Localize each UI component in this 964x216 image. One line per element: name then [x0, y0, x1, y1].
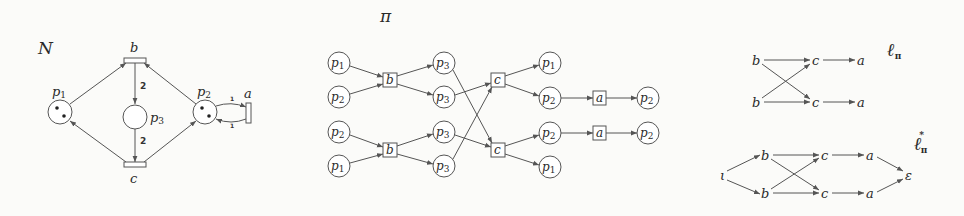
arc-c-p2 [144, 121, 196, 162]
weight-b-p3: 2 [140, 81, 146, 91]
weight-a-p2: 1 [230, 122, 234, 129]
col2-places: p3 p3 p3 p3 [433, 52, 455, 177]
node-a: a [857, 53, 865, 68]
node-b: b [752, 53, 760, 68]
token [207, 114, 211, 118]
node-iota: ι [720, 168, 725, 183]
arc-p2-a [216, 104, 246, 107]
arc-p1-b [70, 63, 126, 104]
transition-c [124, 162, 146, 167]
node-epsilon: ε [905, 168, 912, 183]
node-a: a [866, 148, 874, 163]
event-b-label: b [386, 143, 394, 157]
col1-places: p1 p2 p2 p1 [328, 52, 350, 177]
place-p1 [48, 100, 72, 124]
petri-net-N: N b c a p1 p3 p2 2 2 1 1 [37, 38, 252, 186]
node-b: b [761, 148, 769, 163]
transition-a-label: a [244, 86, 252, 101]
lpo-star-title: ℓπ* [914, 130, 928, 155]
arc-p2-b [144, 63, 196, 104]
arc-c-p1 [70, 121, 126, 162]
place-p3-label: p3 [150, 110, 164, 126]
transition-b [124, 58, 146, 63]
lpo-star-arcs [727, 155, 903, 194]
token [62, 114, 66, 118]
lpo-title: ℓπ [887, 39, 902, 61]
node-c: c [821, 186, 829, 201]
figure-canvas: N b c a p1 p3 p2 2 2 1 1 [0, 0, 964, 216]
lpo-l-pi: ℓπ b b c c a a [752, 39, 902, 110]
process-title: π [379, 6, 392, 26]
process-pi: π p1 p2 p2 p1 b b p3 p3 p3 p3 [328, 6, 659, 178]
transition-a [246, 103, 251, 123]
node-c: c [821, 148, 829, 163]
event-c-label: c [494, 73, 501, 87]
transition-c-label: c [130, 171, 138, 186]
place-p1-label: p1 [52, 84, 66, 100]
node-c: c [812, 95, 820, 110]
weight-p2-a: 1 [230, 95, 234, 102]
place-p2 [193, 100, 217, 124]
node-a: a [857, 95, 865, 110]
place-p3 [123, 105, 147, 129]
col3-places: p1 p2 p2 p1 [539, 52, 561, 178]
weight-p3-c: 2 [140, 136, 146, 146]
node-b: b [761, 186, 769, 201]
node-a: a [866, 186, 874, 201]
event-b-label: b [386, 73, 394, 87]
event-c-label: c [494, 143, 501, 157]
token [200, 106, 204, 110]
net-title: N [37, 38, 54, 58]
transition-b-label: b [130, 40, 138, 55]
token [55, 106, 59, 110]
place-p2-label: p2 [197, 84, 211, 100]
event-a-label: a [596, 91, 603, 105]
node-c: c [812, 53, 820, 68]
lpo-arcs [762, 60, 855, 102]
lpo-l-pi-star: ℓπ* ι b b c c a a ε [720, 130, 928, 201]
node-b: b [752, 95, 760, 110]
event-a-label: a [596, 126, 603, 140]
